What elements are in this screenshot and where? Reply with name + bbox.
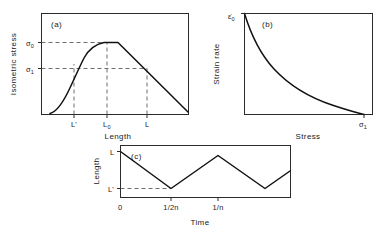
panel-c-curve <box>121 152 291 189</box>
panel-a-xtick-label-l0: L0 <box>103 120 111 130</box>
panel-a-xtick-label-lprime: L' <box>71 120 77 129</box>
panel-a-ylabel: Isometric stress <box>9 33 18 95</box>
panel-a-xlabel: Length <box>105 132 132 141</box>
panel-a-label: (a) <box>51 20 62 29</box>
panel-b-ytop-label: ε̇0 <box>228 12 235 22</box>
panel-c-xtick-label-one-n: 1/n <box>212 203 223 212</box>
panel-c-label: (c) <box>131 152 142 161</box>
panel-b-xend-label: σ1 <box>359 120 367 130</box>
panel-c-ytick-label-l: L <box>110 148 114 157</box>
panel-c-xtick-label-zero: 0 <box>118 203 122 212</box>
panel-c: (c) L L' 0 1/2n 1/n Time Length <box>92 146 291 228</box>
panel-c-frame <box>121 146 291 198</box>
scientific-figure: (a) σ0 σ1 L' L0 L Length Isometric stres… <box>0 0 388 234</box>
panel-c-ytick-label-lprime: L' <box>108 185 114 194</box>
panel-c-xlabel: Time <box>190 218 209 227</box>
panel-a-ytick-label-sigma1: σ1 <box>26 65 34 75</box>
panel-c-ylabel: Length <box>92 158 101 185</box>
panel-b-ylabel: Strain rate <box>212 43 221 84</box>
panel-b-label: (b) <box>262 20 273 29</box>
panel-b-xlabel: Stress <box>295 132 320 141</box>
panel-a: (a) σ0 σ1 L' L0 L Length Isometric stres… <box>9 14 189 142</box>
panel-a-xtick-label-l: L <box>145 120 149 129</box>
figure-svg: (a) σ0 σ1 L' L0 L Length Isometric stres… <box>0 0 388 234</box>
panel-a-curve <box>50 43 188 114</box>
panel-c-xtick-label-half-n: 1/2n <box>163 203 178 212</box>
panel-a-ytick-label-sigma0: σ0 <box>26 39 34 49</box>
panel-b: (b) ε̇0 σ1 Stress Strain rate <box>212 12 373 141</box>
